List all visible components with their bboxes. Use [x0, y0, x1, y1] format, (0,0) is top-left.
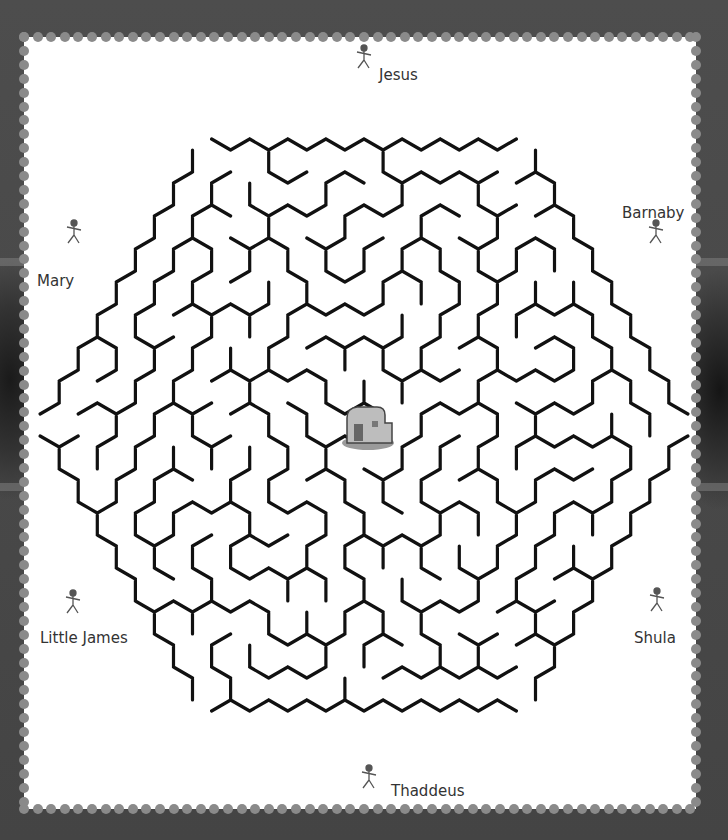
perforation: [291, 804, 301, 814]
perforation: [19, 171, 29, 181]
perforation: [691, 783, 701, 793]
perforation: [19, 616, 29, 626]
perforation: [691, 380, 701, 390]
figure-barnaby-icon: [649, 220, 663, 243]
perforation: [169, 32, 179, 42]
perforation: [359, 32, 369, 42]
label-little-james: Little James: [40, 629, 128, 647]
figure-little-james-icon: [66, 590, 80, 613]
perforation: [19, 797, 29, 807]
perforation: [60, 804, 70, 814]
perforation: [19, 727, 29, 737]
perforation: [691, 727, 701, 737]
perforation: [691, 199, 701, 209]
perforation: [237, 804, 247, 814]
perforation: [196, 804, 206, 814]
house-goal-icon: [342, 407, 394, 450]
perforation: [691, 310, 701, 320]
perforation: [196, 32, 206, 42]
perforation: [19, 769, 29, 779]
perforation: [264, 32, 274, 42]
perforation: [691, 102, 701, 112]
perforation: [19, 324, 29, 334]
perforation: [19, 658, 29, 668]
perforation: [19, 310, 29, 320]
perforation: [604, 804, 614, 814]
perforation: [691, 227, 701, 237]
perforation: [332, 32, 342, 42]
perforation: [19, 102, 29, 112]
perforation: [691, 588, 701, 598]
perforation: [691, 463, 701, 473]
perforation: [631, 32, 641, 42]
perforation: [291, 32, 301, 42]
perforation: [441, 804, 451, 814]
perforation: [155, 32, 165, 42]
perforation: [19, 505, 29, 515]
perforation: [237, 32, 247, 42]
perforation: [536, 32, 546, 42]
perforation: [495, 32, 505, 42]
perforation: [305, 32, 315, 42]
perforation: [19, 463, 29, 473]
perforation: [468, 32, 478, 42]
perforation: [33, 804, 43, 814]
perforation: [19, 213, 29, 223]
perforation: [691, 60, 701, 70]
perforation: [400, 804, 410, 814]
perforation: [19, 783, 29, 793]
perforation: [19, 46, 29, 56]
perforation: [373, 32, 383, 42]
perforation: [691, 519, 701, 529]
perforation: [691, 74, 701, 84]
perforation: [19, 602, 29, 612]
perforation: [223, 804, 233, 814]
perforation: [563, 804, 573, 814]
perforation: [19, 741, 29, 751]
maze[interactable]: [0, 0, 728, 840]
perforation: [691, 185, 701, 195]
perforation: [19, 519, 29, 529]
perforation: [691, 491, 701, 501]
perforation: [19, 491, 29, 501]
perforation: [691, 616, 701, 626]
perforation: [495, 804, 505, 814]
perforation: [19, 88, 29, 98]
perforation: [468, 804, 478, 814]
perforation: [305, 804, 315, 814]
perforation: [536, 804, 546, 814]
perforation: [19, 630, 29, 640]
perforation: [691, 477, 701, 487]
perforation: [400, 32, 410, 42]
perforation: [359, 804, 369, 814]
perforation: [645, 32, 655, 42]
perforation: [87, 804, 97, 814]
perforation: [427, 804, 437, 814]
perforation: [128, 804, 138, 814]
label-mary: Mary: [37, 272, 74, 290]
perforation: [19, 241, 29, 251]
perforation: [19, 74, 29, 84]
perforation: [672, 804, 682, 814]
perforation: [19, 352, 29, 362]
perforation: [19, 32, 29, 42]
perforation: [691, 505, 701, 515]
perforation: [691, 88, 701, 98]
perforation: [19, 588, 29, 598]
perforation: [604, 32, 614, 42]
label-jesus: Jesus: [379, 66, 418, 84]
perforation: [332, 804, 342, 814]
perforation: [101, 804, 111, 814]
figure-mary-icon: [67, 220, 81, 243]
perforation: [691, 630, 701, 640]
perforation: [128, 32, 138, 42]
perforation: [691, 366, 701, 376]
perforation: [264, 804, 274, 814]
perforation: [691, 171, 701, 181]
perforation: [19, 338, 29, 348]
perforation: [19, 185, 29, 195]
perforation: [33, 32, 43, 42]
perforation: [509, 32, 519, 42]
perforation: [373, 804, 383, 814]
perforation: [691, 741, 701, 751]
